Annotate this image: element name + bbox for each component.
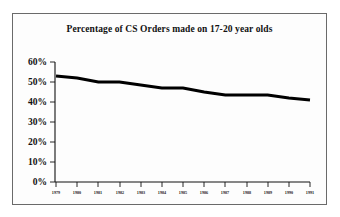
- y-tick-label: 60%: [28, 57, 47, 67]
- x-tick-marks: [56, 182, 310, 187]
- x-tick-label: 1988: [243, 190, 251, 195]
- x-tick-label: 1987: [221, 190, 229, 195]
- chart-figure: Percentage of CS Orders made on 17-20 ye…: [12, 13, 327, 205]
- y-tick-labels: 60% 50% 40% 30% 20% 10% 0%: [28, 57, 47, 187]
- x-tick-label: 1983: [137, 190, 145, 195]
- x-tick-label: 1990: [285, 190, 293, 195]
- x-tick-label: 1985: [179, 190, 187, 195]
- chart-plot-area: 60% 50% 40% 30% 20% 10% 0% 1979: [13, 14, 328, 206]
- y-tick-marks: [50, 62, 55, 182]
- y-tick-label: 50%: [28, 77, 47, 87]
- x-tick-label: 1986: [200, 190, 208, 195]
- x-tick-label: 1989: [264, 190, 272, 195]
- y-tick-label: 10%: [28, 157, 47, 167]
- x-tick-label: 1981: [94, 190, 102, 195]
- x-tick-label: 1980: [73, 190, 81, 195]
- x-tick-label: 1991: [306, 190, 314, 195]
- x-tick-label: 1979: [52, 190, 60, 195]
- x-tick-label: 1984: [158, 190, 167, 195]
- y-tick-label: 20%: [28, 137, 47, 147]
- y-tick-label: 0%: [33, 177, 47, 187]
- x-tick-labels: 1979 1980 1981 1982 1983 1984 1985 1986 …: [52, 190, 314, 195]
- data-series-line: [56, 76, 310, 100]
- x-tick-label: 1982: [116, 190, 124, 195]
- y-tick-label: 30%: [28, 117, 47, 127]
- y-tick-label: 40%: [28, 97, 47, 107]
